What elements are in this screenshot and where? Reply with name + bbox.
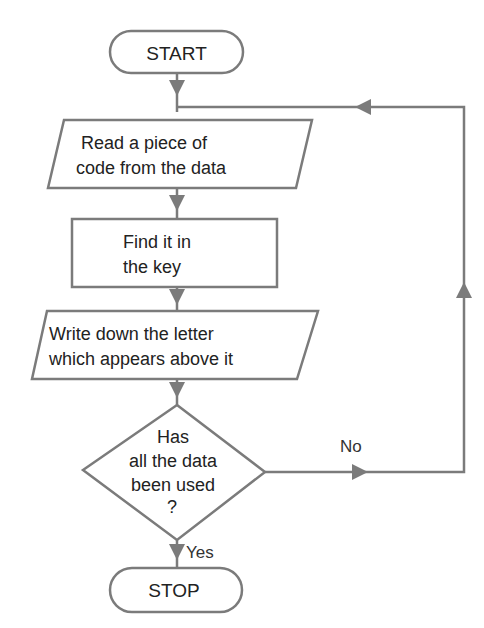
yes-label: Yes xyxy=(186,543,214,562)
write-label-line-2: which appears above it xyxy=(48,349,233,369)
arrow-left-icon xyxy=(355,99,371,115)
arrow-down-icon xyxy=(169,80,185,96)
read-input-box: Read a piece of code from the data xyxy=(48,120,312,188)
stop-terminal: STOP xyxy=(110,568,242,612)
arrow-down-icon xyxy=(169,289,185,305)
read-label-line-1: Read a piece of xyxy=(81,133,208,153)
decision-label-line-2: all the data xyxy=(129,451,218,471)
decision-label-line-3: been used xyxy=(131,475,215,495)
read-label-line-2: code from the data xyxy=(76,158,227,178)
arrow-right-icon xyxy=(352,464,368,480)
arrow-down-icon xyxy=(169,195,185,211)
find-process-box: Find it in the key xyxy=(72,219,277,287)
find-label-line-2: the key xyxy=(123,257,181,277)
decision-diamond: Has all the data been used ? xyxy=(83,405,265,540)
start-terminal: START xyxy=(110,31,243,73)
decision-label-line-1: Has xyxy=(157,427,189,447)
stop-label: STOP xyxy=(148,580,199,601)
write-label-line-1: Write down the letter xyxy=(49,324,214,344)
flowchart: START Read a piece of code from the data… xyxy=(0,0,484,628)
arrow-down-icon xyxy=(169,382,185,398)
arrow-up-icon xyxy=(456,282,472,298)
start-label: START xyxy=(146,43,207,64)
decision-label-line-4: ? xyxy=(167,497,177,517)
arrow-down-icon xyxy=(169,544,185,560)
no-label: No xyxy=(340,437,362,456)
find-label-line-1: Find it in xyxy=(123,232,191,252)
write-output-box: Write down the letter which appears abov… xyxy=(32,311,318,379)
